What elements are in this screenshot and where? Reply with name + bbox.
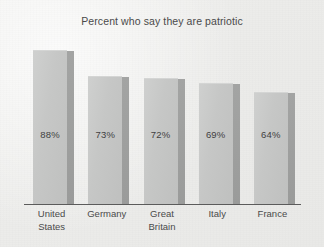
bar-side-face [67, 51, 74, 204]
x-axis-label-great-britain: GreatBritain [134, 208, 189, 233]
bar-germany[interactable]: 73% [88, 77, 129, 204]
chart-title: Percent who say they are patriotic [0, 15, 324, 27]
bar-side-face [178, 79, 185, 204]
bar-front-face [33, 50, 67, 204]
bar-front-face [254, 92, 288, 204]
bar-value-label: 88% [33, 129, 67, 140]
bar-great-britain[interactable]: 72% [144, 79, 185, 204]
bar-side-face [233, 84, 240, 204]
bar-france[interactable]: 64% [254, 93, 295, 204]
bar-front-face [199, 83, 233, 204]
x-axis-label-united-states: UnitedStates [24, 208, 79, 233]
bar-side-face [122, 77, 129, 204]
bar-value-label: 73% [88, 129, 122, 140]
bar-value-label: 72% [144, 129, 178, 140]
x-axis-label-italy: Italy [190, 208, 245, 221]
bar-value-label: 64% [254, 129, 288, 140]
x-axis-label-france: France [245, 208, 300, 221]
bar-value-label: 69% [199, 129, 233, 140]
bar-side-face [288, 93, 295, 204]
plot-area: 88%73%72%69%64% [24, 30, 300, 204]
chart-container: Percent who say they are patriotic 88%73… [0, 0, 324, 247]
x-axis-tick-labels: UnitedStatesGermanyGreatBritainItalyFran… [24, 208, 301, 246]
bar-front-face [144, 78, 178, 204]
bar-italy[interactable]: 69% [199, 84, 240, 204]
x-axis-label-germany: Germany [79, 208, 134, 221]
bar-united-states[interactable]: 88% [33, 51, 74, 204]
x-axis-line [24, 204, 301, 205]
